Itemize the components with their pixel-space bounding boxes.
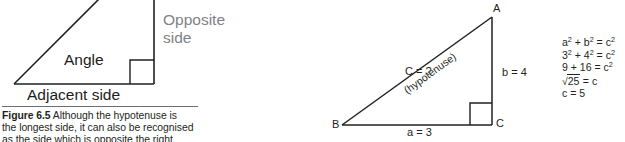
eq1-equals: = — [594, 36, 606, 48]
caption-line-1-rest: Although the hypotenuse is — [51, 110, 177, 121]
pythagorean-equations: a2 + b2 = c2 32 + 42 = c2 9 + 16 = c2 √2… — [562, 36, 615, 100]
vertex-label-b: B — [332, 118, 339, 130]
eq3-exp3: 2 — [609, 60, 613, 69]
right-angle-marker — [470, 103, 492, 125]
caption-divider — [2, 106, 198, 107]
caption-line-2: the longest side, it can also be recogni… — [2, 122, 198, 134]
eq2-equals: = — [594, 49, 606, 61]
eq3-lhs: 9 + 16 — [562, 61, 592, 73]
vertex-label-c: C — [496, 117, 504, 129]
caption-figure-number: Figure 6.5 — [2, 110, 51, 121]
eq4-equals: = c — [580, 75, 597, 87]
equation-line-4: √25 = c — [562, 74, 615, 88]
eq4-radicand: 25 — [567, 74, 580, 88]
label-side-b: b = 4 — [502, 66, 527, 78]
label-opposite-side-line2: side — [163, 29, 191, 46]
eq2-plus: + — [572, 49, 584, 61]
caption-line-1: Figure 6.5 Although the hypotenuse is — [2, 110, 198, 122]
label-adjacent-side: Adjacent side — [27, 86, 120, 104]
eq1-plus: + — [572, 36, 584, 48]
eq2-exp3: 2 — [611, 47, 615, 56]
equation-line-5: c = 5 — [562, 87, 615, 100]
equation-line-2: 32 + 42 = c2 — [562, 49, 615, 62]
caption-line-3: as the side which is opposite the right … — [2, 134, 198, 142]
label-angle: Angle — [64, 51, 104, 69]
figure-left-labelled-triangle: Opposite side Angle Adjacent side Figure… — [0, 0, 210, 142]
left-hypotenuse-line — [14, 0, 104, 84]
eq3-equals: = — [592, 61, 604, 73]
label-opposite-side: Opposite side — [163, 11, 225, 47]
label-side-a: a = 3 — [407, 126, 432, 138]
equation-line-3: 9 + 16 = c2 — [562, 61, 615, 74]
left-right-angle-marker — [130, 60, 154, 84]
eq1-exp3: 2 — [611, 35, 615, 44]
label-opposite-side-line1: Opposite — [163, 11, 225, 28]
figure-caption: Figure 6.5 Although the hypotenuse is th… — [2, 110, 198, 133]
figure-panel: Opposite side Angle Adjacent side Figure… — [0, 0, 625, 142]
vertex-label-a: A — [493, 2, 500, 14]
